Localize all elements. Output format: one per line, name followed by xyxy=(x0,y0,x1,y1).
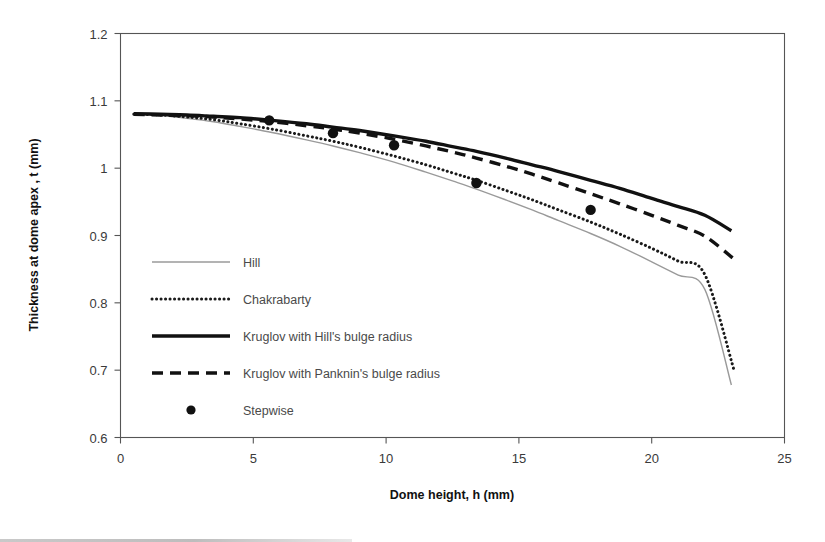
data-curves xyxy=(134,114,734,385)
plot-frame xyxy=(121,34,785,438)
x-axis-title: Dome height, h (mm) xyxy=(390,488,514,502)
y-axis-title: Thickness at dome apex , t (mm) xyxy=(27,138,41,331)
curve-hill xyxy=(134,114,732,385)
thickness-vs-dome-height-chart: 0510152025 0.60.70.80.911.11.2 HillChakr… xyxy=(0,0,825,542)
legend-label: Hill xyxy=(243,256,260,270)
y-axis-tick-labels: 0.60.70.80.911.11.2 xyxy=(89,27,107,446)
y-tick-label: 1 xyxy=(100,161,107,176)
x-tick-label: 10 xyxy=(379,451,393,466)
curve-kruglov-with-panknin-s-bulge-radius xyxy=(134,114,734,259)
y-tick-label: 1.2 xyxy=(89,27,107,42)
x-axis-ticks xyxy=(121,438,785,444)
legend-label: Kruglov with Hill's bulge radius xyxy=(243,330,412,344)
y-tick-label: 1.1 xyxy=(89,94,107,109)
legend-label: Stepwise xyxy=(243,404,294,418)
x-axis-tick-labels: 0510152025 xyxy=(117,451,792,466)
x-tick-label: 20 xyxy=(644,451,658,466)
chart-legend: HillChakrabartyKruglov with Hill's bulge… xyxy=(152,256,440,418)
stepwise-point xyxy=(328,128,338,138)
stepwise-point xyxy=(471,178,481,188)
stepwise-point xyxy=(264,115,274,125)
y-axis-ticks xyxy=(115,34,121,438)
x-tick-label: 5 xyxy=(250,451,257,466)
legend-label: Kruglov with Panknin's bulge radius xyxy=(243,367,440,381)
curve-chakrabarty xyxy=(134,114,734,370)
y-tick-label: 0.7 xyxy=(89,363,107,378)
stepwise-point xyxy=(585,205,595,215)
y-tick-label: 0.6 xyxy=(89,431,107,446)
y-tick-label: 0.9 xyxy=(89,229,107,244)
stepwise-point xyxy=(389,140,399,150)
x-tick-label: 25 xyxy=(777,451,791,466)
legend-label: Chakrabarty xyxy=(243,293,312,307)
y-tick-label: 0.8 xyxy=(89,296,107,311)
curve-kruglov-with-hill-s-bulge-radius xyxy=(134,114,732,231)
legend-marker-icon xyxy=(186,405,195,414)
x-tick-label: 0 xyxy=(117,451,124,466)
x-tick-label: 15 xyxy=(512,451,526,466)
